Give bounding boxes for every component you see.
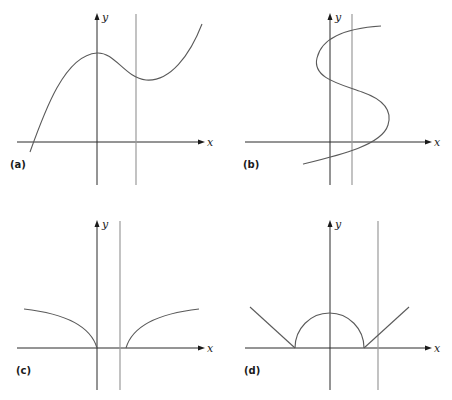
- x-axis-arrow-icon: [425, 140, 432, 145]
- panel-label: (d): [244, 365, 260, 376]
- panel-b: x y (b): [243, 11, 441, 185]
- panel-label: (a): [10, 159, 26, 170]
- x-axis-arrow-icon: [198, 140, 205, 145]
- graph-curve-right-branch: [126, 309, 199, 348]
- panel-label: (b): [243, 159, 259, 170]
- graph-curve: [30, 24, 202, 152]
- y-axis-label: y: [334, 11, 342, 24]
- panel-a: x y (a): [10, 11, 214, 185]
- graph-right-ray: [364, 307, 409, 348]
- x-axis-label: x: [207, 136, 214, 149]
- vertical-line-test-figure: x y (a) x y (b) x y (c) x: [0, 0, 452, 400]
- y-axis-label: y: [334, 218, 342, 231]
- x-axis-label: x: [207, 342, 214, 355]
- y-axis-arrow-icon: [95, 220, 100, 227]
- graph-left-ray: [250, 307, 295, 348]
- panel-c: x y (c): [16, 218, 214, 390]
- y-axis-arrow-icon: [328, 13, 333, 20]
- panel-label: (c): [16, 365, 31, 376]
- graph-curve: [303, 26, 389, 164]
- x-axis-label: x: [434, 342, 441, 355]
- graph-curve-left-branch: [24, 309, 97, 348]
- x-axis-arrow-icon: [425, 346, 432, 351]
- panel-d: x y (d): [244, 218, 441, 390]
- x-axis-arrow-icon: [198, 346, 205, 351]
- y-axis-label: y: [101, 11, 109, 24]
- y-axis-arrow-icon: [95, 13, 100, 20]
- y-axis-arrow-icon: [328, 220, 333, 227]
- x-axis-label: x: [434, 136, 441, 149]
- y-axis-label: y: [101, 218, 109, 231]
